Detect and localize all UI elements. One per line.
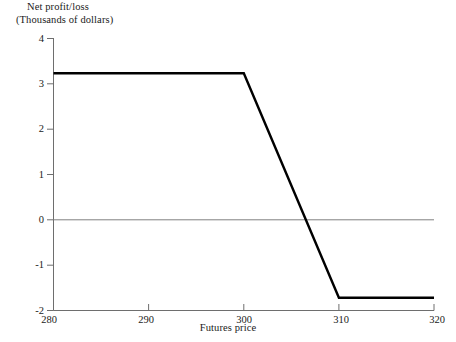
payoff-chart: Net profit/loss (Thousands of dollars) F… [0, 0, 456, 342]
net-profit-loss-line [54, 73, 435, 298]
plot-area [0, 0, 456, 342]
x-axis-ticks [54, 304, 435, 311]
y-axis-ticks [47, 39, 54, 311]
